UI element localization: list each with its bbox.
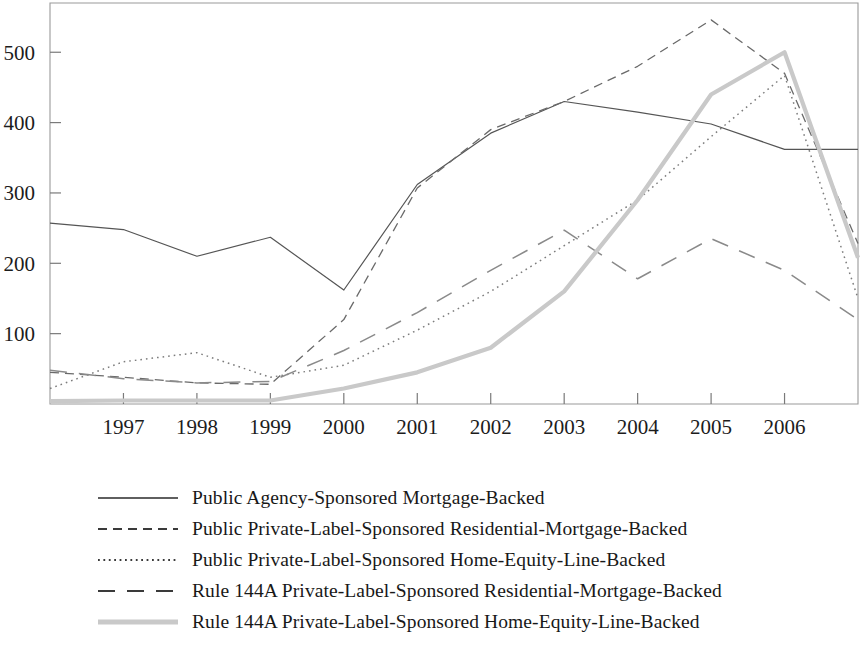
series-line-1 [50, 101, 858, 290]
y-axis-ticks [50, 52, 61, 333]
legend-item-label: Public Agency-Sponsored Mortgage-Backed [192, 487, 545, 509]
legend-item[interactable]: Public Private-Label-Sponsored Home-Equi… [96, 544, 856, 575]
legend-item-label: Rule 144A Private-Label-Sponsored Home-E… [192, 611, 700, 633]
legend-item[interactable]: Rule 144A Private-Label-Sponsored Reside… [96, 575, 856, 606]
legend-item-label: Public Private-Label-Sponsored Home-Equi… [192, 549, 665, 571]
y-tick-label: 500 [4, 41, 36, 65]
x-tick-label: 1998 [176, 415, 218, 439]
legend-item[interactable]: Public Private-Label-Sponsored Residenti… [96, 513, 856, 544]
legend-swatch-icon [96, 583, 180, 599]
x-tick-label: 2005 [690, 415, 732, 439]
legend-swatch-icon [96, 552, 180, 568]
y-axis-tick-labels: 100200300400500 [4, 41, 36, 346]
x-tick-label: 2004 [617, 415, 660, 439]
chart-legend: Public Agency-Sponsored Mortgage-BackedP… [96, 482, 856, 637]
x-axis-tick-labels: 1997199819992000200120022003200420052006 [102, 415, 805, 439]
y-tick-label: 300 [4, 181, 36, 205]
x-tick-label: 2003 [543, 415, 585, 439]
chart-figure: 100200300400500 199719981999200020012002… [0, 0, 861, 649]
plot-frame [50, 3, 858, 404]
legend-item-label: Rule 144A Private-Label-Sponsored Reside… [192, 580, 722, 602]
x-tick-label: 1999 [249, 415, 291, 439]
x-tick-label: 2000 [323, 415, 365, 439]
series-line-5 [50, 52, 858, 401]
line-chart-svg: 100200300400500 199719981999200020012002… [0, 0, 861, 470]
legend-item-label: Public Private-Label-Sponsored Residenti… [192, 518, 687, 540]
legend-item[interactable]: Rule 144A Private-Label-Sponsored Home-E… [96, 606, 856, 637]
legend-swatch-icon [96, 490, 180, 506]
series-line-2 [50, 20, 858, 384]
x-tick-label: 1997 [102, 415, 144, 439]
x-tick-label: 2002 [470, 415, 512, 439]
series-line-3 [50, 75, 858, 388]
data-series-group [50, 20, 858, 401]
legend-swatch-icon [96, 521, 180, 537]
legend-swatch-icon [96, 614, 180, 630]
plot-area: 100200300400500 199719981999200020012002… [0, 0, 861, 470]
x-tick-label: 2001 [396, 415, 438, 439]
y-tick-label: 100 [4, 322, 36, 346]
y-tick-label: 200 [4, 252, 36, 276]
y-tick-label: 400 [4, 111, 36, 135]
legend-item[interactable]: Public Agency-Sponsored Mortgage-Backed [96, 482, 856, 513]
x-tick-label: 2006 [764, 415, 806, 439]
